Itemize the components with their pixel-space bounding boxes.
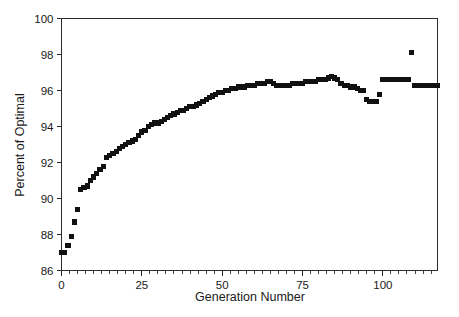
- data-point: [409, 50, 414, 55]
- y-tick-label: 86: [41, 265, 54, 277]
- data-point: [65, 243, 70, 248]
- y-tick-label: 100: [34, 13, 53, 25]
- x-tick-label: 100: [373, 279, 392, 291]
- y-tick-label: 98: [41, 49, 54, 61]
- data-point: [69, 234, 74, 239]
- data-point: [406, 77, 411, 82]
- y-axis-title: Percent of Optimal: [13, 93, 27, 197]
- data-point: [72, 219, 77, 224]
- data-point: [374, 99, 379, 104]
- data-point: [62, 250, 67, 255]
- y-tick-label: 92: [41, 157, 54, 169]
- chart-figure: 868890929496981000255075100 Generation N…: [0, 0, 459, 317]
- data-point: [361, 88, 366, 93]
- y-tick-label: 88: [41, 229, 54, 241]
- y-tick-label: 94: [41, 121, 54, 133]
- data-point: [101, 164, 106, 169]
- x-tick-label: 75: [296, 279, 309, 291]
- data-point: [75, 207, 80, 212]
- scatter-plot: 868890929496981000255075100 Generation N…: [0, 0, 459, 317]
- data-point: [85, 183, 90, 188]
- data-markers: [59, 50, 440, 255]
- x-tick-label: 50: [216, 279, 229, 291]
- x-tick-label: 25: [135, 279, 148, 291]
- x-axis-title: Generation Number: [195, 290, 305, 304]
- axes: [62, 19, 438, 271]
- y-tick-label: 96: [41, 85, 54, 97]
- data-point: [377, 92, 382, 97]
- x-tick-label: 0: [58, 279, 64, 291]
- axis-tick-labels: 868890929496981000255075100: [34, 13, 392, 291]
- axis-ticks: [57, 19, 431, 277]
- data-point: [435, 83, 440, 88]
- y-tick-label: 90: [41, 193, 54, 205]
